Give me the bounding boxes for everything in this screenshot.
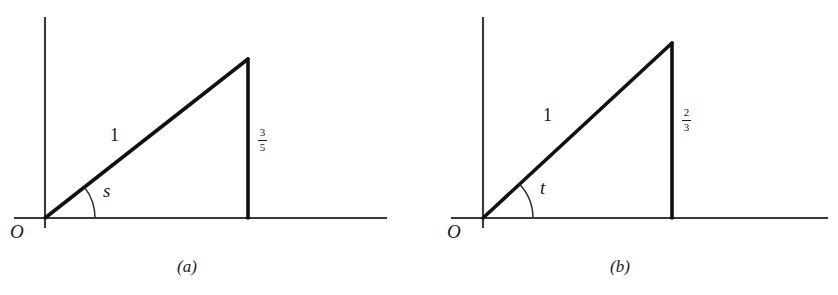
opposite-denominator-a: 5: [258, 141, 267, 154]
opposite-numerator-b: 2: [682, 107, 691, 120]
opposite-numerator-a: 3: [258, 127, 267, 140]
opposite-label-a: 3 5: [258, 127, 267, 153]
panel-b-drawing: [419, 0, 838, 295]
opposite-denominator-b: 3: [682, 121, 691, 134]
hypotenuse-line: [45, 59, 248, 218]
angle-arc: [519, 184, 533, 218]
angle-arc: [85, 187, 95, 218]
opposite-label-b: 2 3: [682, 107, 691, 133]
origin-label-b: O: [447, 222, 461, 241]
figure-container: O s 1 3 5 (a) O t 1 2 3: [0, 0, 838, 295]
origin-label-a: O: [10, 222, 24, 241]
angle-label-s: s: [103, 181, 110, 200]
panel-a-drawing: [0, 0, 419, 295]
panel-caption-a: (a): [177, 258, 197, 275]
panel-caption-b: (b): [610, 258, 630, 275]
hypotenuse-label-a: 1: [110, 126, 119, 144]
angle-label-t: t: [540, 178, 545, 197]
hypotenuse-label-b: 1: [543, 106, 552, 124]
figure-panel-b: O t 1 2 3 (b): [419, 0, 838, 295]
figure-panel-a: O s 1 3 5 (a): [0, 0, 419, 295]
hypotenuse-line: [483, 43, 672, 218]
